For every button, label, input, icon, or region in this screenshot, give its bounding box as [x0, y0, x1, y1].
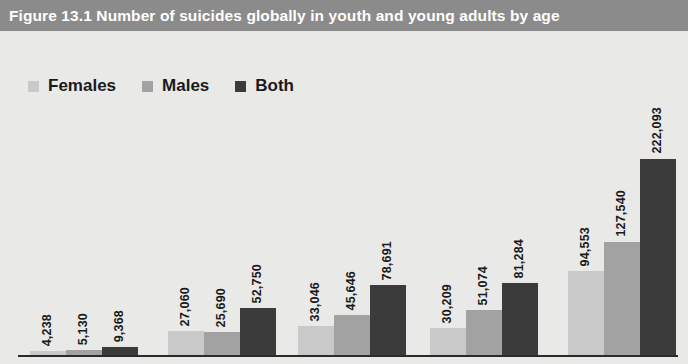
bar-value-label-females-group-2: 27,060 — [178, 287, 192, 326]
bar-value-label-both-group-5: 222,093 — [650, 107, 664, 154]
bar-both-group-2 — [240, 308, 276, 355]
bar-both-group-1 — [102, 347, 138, 355]
bar-males-group-3 — [334, 315, 370, 355]
bar-value-label-males-group-3: 45,646 — [344, 271, 358, 310]
bar-males-group-5 — [604, 242, 640, 355]
x-axis-line — [18, 355, 678, 357]
bar-both-group-3 — [370, 285, 406, 355]
bar-value-label-females-group-1: 4,238 — [40, 314, 54, 346]
bar-value-label-females-group-4: 30,209 — [440, 284, 454, 323]
bar-females-group-4 — [430, 328, 466, 355]
bar-value-label-males-group-2: 25,690 — [214, 288, 228, 327]
bar-females-group-3 — [298, 326, 334, 355]
bar-females-group-2 — [168, 331, 204, 355]
figure-header-band: Figure 13.1 Number of suicides globally … — [0, 0, 688, 31]
bar-males-group-4 — [466, 310, 502, 355]
bar-males-group-2 — [204, 332, 240, 355]
figure-title: Figure 13.1 Number of suicides globally … — [0, 7, 560, 25]
bar-value-label-males-group-1: 5,130 — [76, 313, 90, 345]
bar-value-label-both-group-1: 9,368 — [112, 310, 126, 342]
bar-value-label-both-group-4: 81,284 — [512, 239, 526, 278]
figure-container: Figure 13.1 Number of suicides globally … — [0, 0, 688, 364]
bar-value-label-males-group-5: 127,540 — [614, 190, 628, 237]
bar-value-label-females-group-5: 94,553 — [578, 227, 592, 266]
bar-females-group-5 — [568, 271, 604, 355]
bar-value-label-females-group-3: 33,046 — [308, 282, 322, 321]
bar-value-label-males-group-4: 51,074 — [476, 266, 490, 305]
bar-both-group-5 — [640, 159, 676, 355]
bars-layer: 4,2385,1309,36827,06025,69052,75033,0464… — [0, 31, 688, 364]
bar-value-label-both-group-3: 78,691 — [380, 241, 394, 280]
bar-both-group-4 — [502, 283, 538, 355]
plot-area: Females Males Both 4,2385,1309,36827,060… — [0, 31, 688, 364]
bar-value-label-both-group-2: 52,750 — [250, 264, 264, 303]
